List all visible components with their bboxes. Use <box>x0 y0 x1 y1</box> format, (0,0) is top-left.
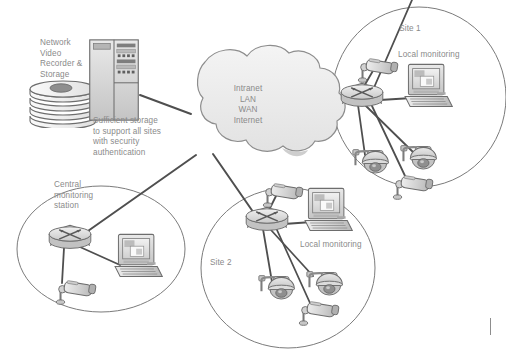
site1-group <box>341 0 452 199</box>
site2-dome-camera-1 <box>259 276 294 299</box>
cloud-icon <box>197 45 345 156</box>
nvr-group <box>30 40 138 129</box>
link-nvr-cloud <box>140 95 191 114</box>
central-router-icon <box>49 225 91 248</box>
site2-router-icon <box>246 207 288 230</box>
link-cloud-site2 <box>213 154 258 219</box>
site2-dome-camera-2 <box>307 272 342 295</box>
site1-dome-camera-2 <box>401 146 436 169</box>
site1-router-icon <box>341 83 383 106</box>
link-cloud-central <box>78 155 196 238</box>
diagram-graphics <box>0 0 506 353</box>
site2-bullet-camera-1 <box>263 183 303 207</box>
site2-workstation-icon <box>305 188 352 230</box>
network-diagram-canvas: Network Video Recorder & Storage Suffici… <box>0 0 506 353</box>
page-edge-mark <box>490 318 491 335</box>
server-tower-icon <box>90 40 139 120</box>
central-boundary <box>17 186 185 312</box>
site1-bullet-camera-2 <box>393 175 433 199</box>
central-group <box>49 225 162 304</box>
site2-boundary <box>201 188 375 348</box>
central-links <box>62 247 120 283</box>
disk-stack-icon <box>30 81 96 129</box>
site1-workstation-icon <box>405 64 452 106</box>
site2-bullet-camera-2 <box>299 301 339 325</box>
central-bullet-camera-1 <box>56 280 96 304</box>
site2-group <box>246 183 352 325</box>
central-workstation-icon <box>115 234 162 276</box>
